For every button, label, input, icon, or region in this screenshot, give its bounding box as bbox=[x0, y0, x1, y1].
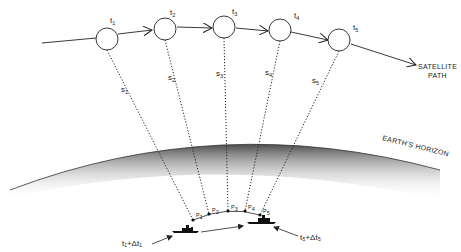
range-lines bbox=[107, 38, 339, 220]
satellite-positions bbox=[96, 16, 350, 51]
horizon-label: EARTH'S HORIZON bbox=[382, 134, 450, 157]
satellite-circle-3 bbox=[213, 16, 235, 38]
ship-start-icon bbox=[172, 225, 199, 233]
svg-text:t5: t5 bbox=[353, 23, 358, 33]
ship-end-label: t₅+Δt₅ bbox=[300, 233, 321, 242]
range-labels: s1 s2 s3 s4 s5 bbox=[121, 68, 319, 95]
satellite-circle-4 bbox=[269, 19, 291, 41]
svg-text:P4: P4 bbox=[248, 204, 255, 212]
svg-text:P5: P5 bbox=[263, 208, 270, 216]
svg-text:t2: t2 bbox=[170, 8, 175, 18]
ground-track bbox=[193, 211, 260, 220]
svg-text:s4: s4 bbox=[265, 68, 272, 78]
satellite-circle-2 bbox=[154, 18, 176, 40]
ship-start-label: t₁+Δt₁ bbox=[122, 239, 142, 248]
svg-text:t1: t1 bbox=[110, 16, 115, 26]
ship-end-icon bbox=[247, 215, 276, 224]
svg-text:t3: t3 bbox=[232, 7, 237, 17]
satellite-path-label-1: SATELLITE bbox=[418, 63, 457, 70]
svg-text:P3: P3 bbox=[231, 204, 238, 212]
svg-text:t4: t4 bbox=[294, 11, 299, 21]
svg-text:s5: s5 bbox=[312, 76, 319, 86]
svg-text:s3: s3 bbox=[216, 69, 223, 79]
svg-text:s1: s1 bbox=[121, 85, 128, 95]
svg-text:s2: s2 bbox=[168, 73, 175, 83]
earth-horizon bbox=[10, 144, 440, 200]
satellite-path-label-2: PATH bbox=[428, 72, 447, 79]
satellite-circle-1 bbox=[96, 28, 118, 50]
motion-arrows bbox=[152, 226, 298, 244]
satellite-tracking-diagram: EARTH'S HORIZON SATELLITE PATH t1 t2 t3 … bbox=[0, 0, 461, 252]
satellite-circle-5 bbox=[328, 29, 350, 51]
